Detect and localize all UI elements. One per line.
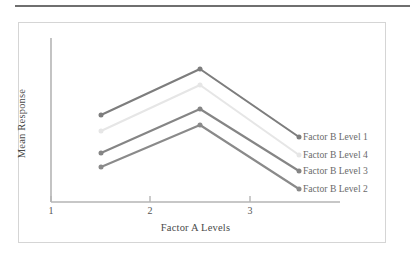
data-point-marker: [297, 187, 302, 192]
x-tick-label-3: 3: [235, 205, 265, 216]
data-point-marker: [198, 107, 203, 112]
data-point-marker: [297, 135, 302, 140]
data-point-marker: [99, 165, 104, 170]
series-line: [101, 85, 299, 155]
x-tick-label-2: 2: [135, 205, 165, 216]
data-point-marker: [198, 83, 203, 88]
y-axis-title: Mean Response: [16, 69, 27, 179]
legend-label-series-3: Factor B Level 3: [303, 165, 368, 176]
data-point-marker: [297, 153, 302, 158]
data-point-marker: [297, 169, 302, 174]
data-point-marker: [198, 67, 203, 72]
data-point-marker: [99, 129, 104, 134]
series-lines: [99, 67, 302, 192]
x-axis-title: Factor A Levels: [51, 222, 340, 233]
legend-label-series-2: Factor B Level 2: [303, 183, 368, 194]
axis-lines: [51, 38, 340, 202]
x-tick-label-1: 1: [36, 205, 66, 216]
data-point-marker: [99, 113, 104, 118]
legend-label-series-1: Factor B Level 1: [303, 131, 368, 142]
data-point-marker: [99, 151, 104, 156]
legend-label-series-4: Factor B Level 4: [303, 149, 368, 160]
data-point-marker: [198, 123, 203, 128]
interaction-plot: Mean Response Factor A Levels 1 2 3 Fact…: [0, 0, 414, 271]
